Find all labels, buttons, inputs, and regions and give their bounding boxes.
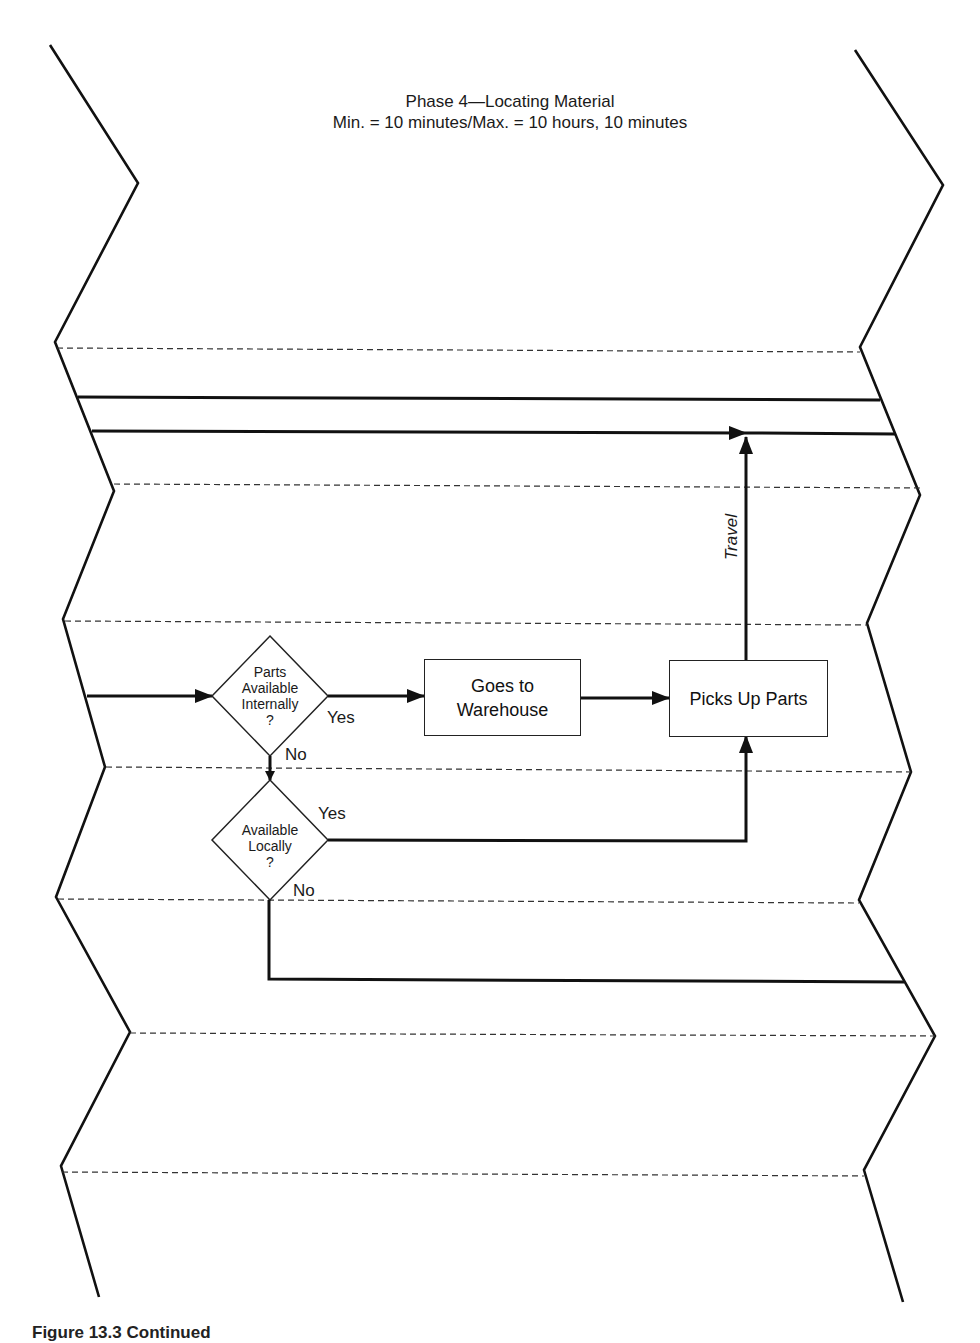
process-pickup-label: Picks Up Parts	[689, 687, 807, 711]
decision-internal-line: Internally	[215, 696, 325, 712]
decision-local-line: ?	[215, 854, 325, 870]
process-warehouse-line: Warehouse	[457, 698, 548, 722]
flow-line-lower	[92, 431, 746, 433]
process-goes-to-warehouse: Goes to Warehouse	[424, 659, 581, 736]
label-travel: Travel	[722, 514, 742, 560]
left-zigzag-edge	[50, 45, 138, 1297]
flow-line-upper	[78, 397, 880, 400]
decision-local-line: Available	[215, 822, 325, 838]
decision-internal-text: Parts Available Internally ?	[215, 664, 325, 728]
diagram-subtitle: Min. = 10 minutes/Max. = 10 hours, 10 mi…	[0, 112, 980, 133]
label-local-yes: Yes	[318, 804, 346, 824]
decision-local-line: Locally	[215, 838, 325, 854]
diagram-title: Phase 4—Locating Material	[0, 91, 980, 112]
process-picks-up-parts: Picks Up Parts	[669, 660, 828, 737]
figure-caption: Figure 13.3 Continued	[32, 1323, 211, 1343]
label-local-no: No	[293, 881, 315, 901]
decision-internal-line: ?	[215, 712, 325, 728]
label-internal-no: No	[285, 745, 307, 765]
process-warehouse-line: Goes to	[457, 674, 548, 698]
lane-separators	[57, 348, 935, 1176]
no-local-path-out	[269, 900, 904, 982]
flow-line-lower-continue	[746, 433, 895, 434]
decision-internal-line: Parts	[215, 664, 325, 680]
yes-local-path-to-pickup	[328, 736, 746, 841]
decision-internal-line: Available	[215, 680, 325, 696]
decision-local-text: Available Locally ?	[215, 822, 325, 870]
label-internal-yes: Yes	[327, 708, 355, 728]
right-zigzag-edge	[855, 50, 943, 1302]
